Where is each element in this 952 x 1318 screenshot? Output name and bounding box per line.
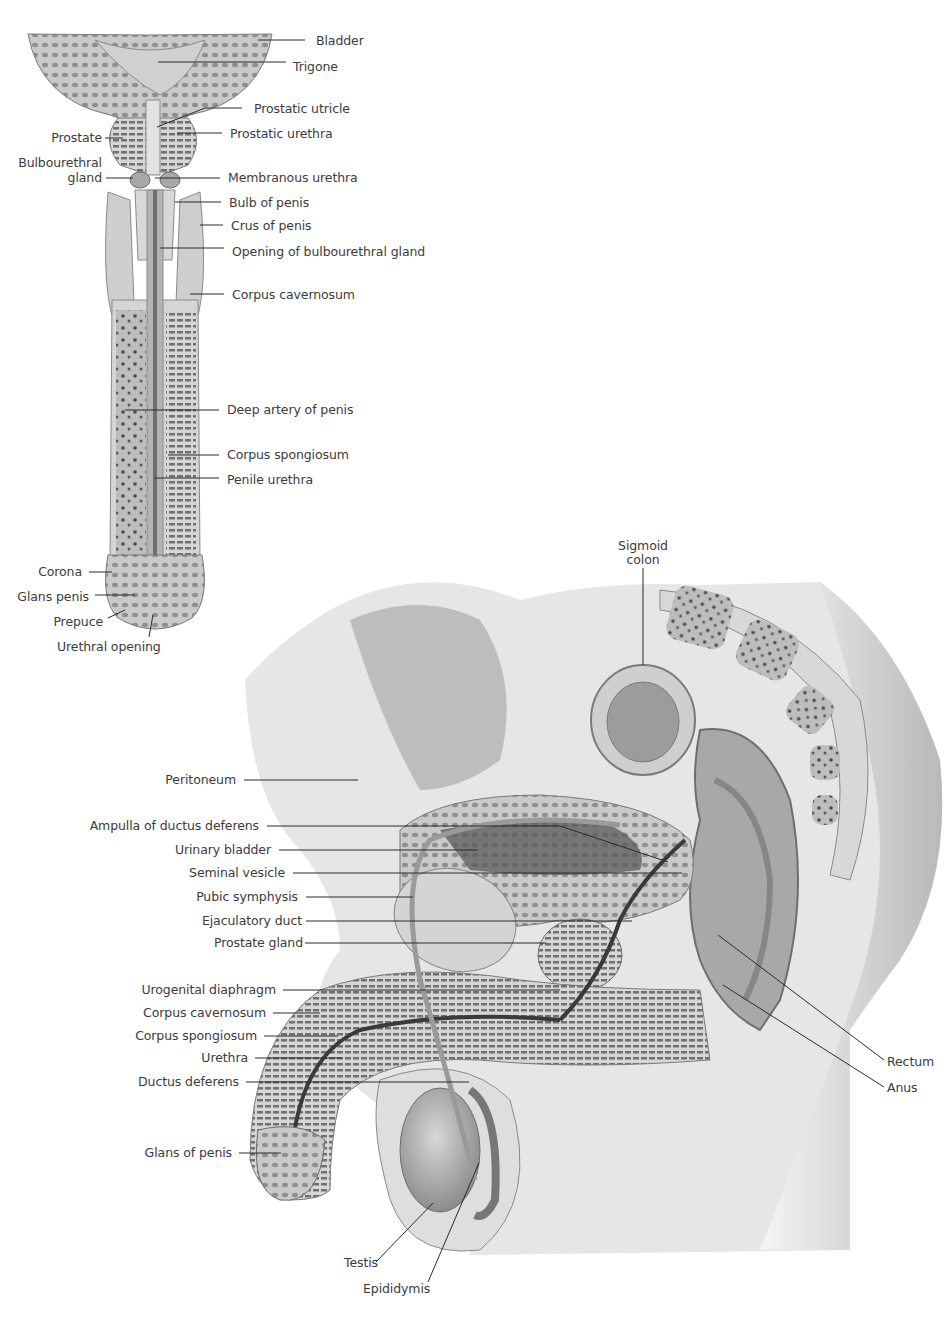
label-ampulla-of-ductus-deferens: Ampulla of ductus deferens bbox=[60, 819, 259, 833]
label-prepuce: Prepuce bbox=[10, 615, 103, 629]
label-bulb-of-penis: Bulb of penis bbox=[229, 196, 309, 210]
coronal-view-art bbox=[28, 34, 272, 629]
label-sigmoid-colon-line2: colon bbox=[603, 553, 683, 567]
label-opening-of-bulbourethral-gland: Opening of bulbourethral gland bbox=[232, 245, 425, 259]
label-prostate: Prostate bbox=[20, 131, 102, 145]
label-corpus-cavernosum-coronal: Corpus cavernosum bbox=[232, 288, 355, 302]
label-ejaculatory-duct: Ejaculatory duct bbox=[60, 914, 302, 928]
label-glans-of-penis: Glans of penis bbox=[60, 1146, 232, 1160]
label-rectum: Rectum bbox=[887, 1055, 934, 1069]
label-pubic-symphysis: Pubic symphysis bbox=[60, 890, 298, 904]
label-urinary-bladder: Urinary bladder bbox=[60, 843, 271, 857]
label-prostatic-urethra: Prostatic urethra bbox=[230, 127, 333, 141]
label-membranous-urethra: Membranous urethra bbox=[228, 171, 358, 185]
label-deep-artery-of-penis: Deep artery of penis bbox=[227, 403, 353, 417]
label-penile-urethra: Penile urethra bbox=[227, 473, 313, 487]
label-epididymis: Epididymis bbox=[363, 1282, 430, 1296]
label-ductus-deferens: Ductus deferens bbox=[60, 1075, 239, 1089]
label-seminal-vesicle: Seminal vesicle bbox=[60, 866, 285, 880]
label-bulbourethral-gland-line2: gland bbox=[10, 171, 102, 185]
label-corpus-spongiosum-coronal: Corpus spongiosum bbox=[227, 448, 349, 462]
label-prostatic-utricle: Prostatic utricle bbox=[254, 102, 350, 116]
label-peritoneum: Peritoneum bbox=[100, 773, 236, 787]
label-urethral-opening: Urethral opening bbox=[57, 640, 161, 654]
label-trigone: Trigone bbox=[293, 60, 338, 74]
label-sigmoid-colon-line1: Sigmoid bbox=[603, 539, 683, 553]
label-testis: Testis bbox=[344, 1256, 378, 1270]
label-corona: Corona bbox=[10, 565, 82, 579]
label-anus: Anus bbox=[887, 1081, 918, 1095]
label-glans-penis: Glans penis bbox=[10, 590, 89, 604]
label-crus-of-penis: Crus of penis bbox=[231, 219, 312, 233]
label-bladder: Bladder bbox=[316, 34, 364, 48]
label-urethra: Urethra bbox=[60, 1051, 248, 1065]
label-urogenital-diaphragm: Urogenital diaphragm bbox=[60, 983, 276, 997]
label-bulbourethral-gland-line1: Bulbourethral bbox=[10, 156, 102, 170]
anatomy-illustration bbox=[0, 0, 952, 1318]
sagittal-view-art bbox=[245, 582, 942, 1255]
label-corpus-spongiosum-sagittal: Corpus spongiosum bbox=[60, 1029, 257, 1043]
label-prostate-gland: Prostate gland bbox=[60, 936, 303, 950]
label-corpus-cavernosum-sagittal: Corpus cavernosum bbox=[60, 1006, 266, 1020]
